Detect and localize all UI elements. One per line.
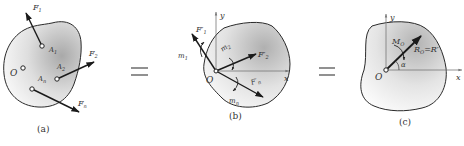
point-a2 (55, 77, 59, 81)
label-o: O (10, 68, 18, 78)
point-o-a (21, 66, 25, 70)
point-a1 (40, 44, 44, 48)
label-f1: F1 (32, 3, 42, 13)
panel-a: O F1 A1 F2 A2 Fn An (a) (4, 3, 98, 134)
label-o-b: O (206, 75, 214, 85)
point-an (30, 87, 34, 91)
caption-a: (a) (37, 124, 49, 134)
label-alpha: α (401, 61, 406, 69)
caption-c: (c) (399, 117, 411, 127)
label-f2: F2 (88, 49, 98, 59)
label-m1: m1 (178, 52, 188, 61)
force-reduction-diagram: O F1 A1 F2 A2 Fn An (a) y x F′1 F′ (0, 0, 464, 146)
label-y-c: y (389, 13, 395, 22)
rigid-body-b (204, 22, 290, 107)
label-f1-prime: F′1 (195, 25, 207, 35)
label-fn: Fn (77, 99, 87, 109)
equals-sign-2 (319, 68, 335, 75)
point-o-b (214, 69, 218, 73)
panel-c: y x RO=R′ MO α O (c) (361, 13, 462, 127)
panel-b: y x F′1 F′2 F′n m1 m2 mn O (b) (178, 11, 290, 121)
label-y-b: y (219, 11, 225, 20)
label-x-b: x (284, 74, 289, 83)
equals-sign-1 (131, 68, 148, 75)
caption-b: (b) (229, 111, 242, 121)
label-ro: RO=R′ (413, 45, 439, 55)
label-o-c: O (375, 72, 383, 82)
point-o-c (384, 68, 388, 72)
label-x-c: x (456, 73, 461, 82)
